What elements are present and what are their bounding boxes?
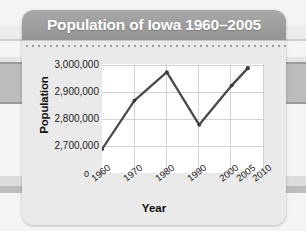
x-axis-tick-group: 1960 1970 1980 1990 2000 2005 2010 [22, 175, 286, 205]
data-point [197, 123, 201, 127]
data-point-markers [102, 66, 250, 151]
y-axis-tick-label: 3,000,000 [29, 60, 99, 70]
x-axis-title: Year [22, 202, 286, 214]
y-axis-tick-label: 2,900,000 [29, 87, 99, 97]
plot-area [102, 64, 264, 173]
chart-title: Population of Iowa 1960–2005 [47, 16, 261, 34]
y-axis-tick-label: 2,800,000 [29, 114, 99, 124]
plot-svg [102, 64, 264, 173]
y-axis-tick-group: 3,000,000 2,900,000 2,800,000 2,700,000 [25, 47, 99, 167]
chart-card: Population of Iowa 1960–2005 Population … [22, 10, 286, 225]
data-point [230, 84, 234, 88]
grid-lines-vertical [135, 64, 264, 173]
chart-title-bar: Population of Iowa 1960–2005 [22, 10, 286, 40]
data-point [246, 66, 250, 70]
screenshot-root: Population of Iowa 1960–2005 Population … [0, 0, 306, 231]
chart-body: Population 3,000,000 2,900,000 2,800,000… [22, 47, 286, 225]
data-series-line [102, 68, 248, 149]
data-point [133, 99, 137, 103]
y-axis-tick-label: 2,700,000 [29, 141, 99, 151]
data-point [165, 70, 169, 74]
